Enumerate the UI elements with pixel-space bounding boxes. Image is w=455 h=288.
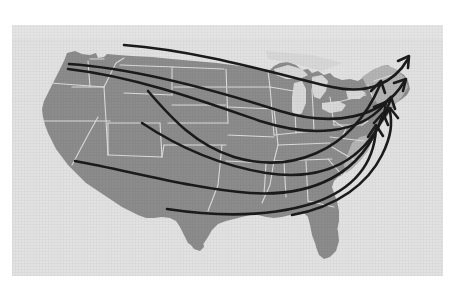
map-panel: [12, 25, 443, 276]
figure-canvas: [0, 0, 455, 288]
us-map-svg: [12, 25, 443, 276]
